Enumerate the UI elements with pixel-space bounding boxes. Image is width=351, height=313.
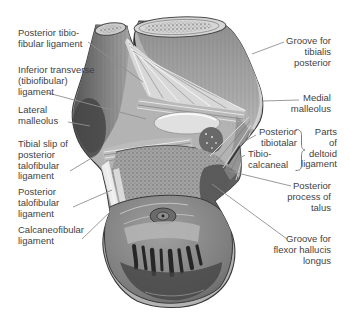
calcaneus [104,195,232,303]
label-inferior-transverse-tibiofibular-ligament: Inferior transverse (tibiofibular) ligam… [18,65,95,97]
label-tibial-slip-of-posterior-talofibular-ligament: Tibial slip of posterior talofibular lig… [18,139,68,182]
label-tibiocalcaneal: Tibio- calcaneal [248,149,288,171]
anatomy-diagram-panel: Posterior tibio- fibular ligament Inferi… [0,0,351,313]
label-parts-of-deltoid-ligament: Parts of deltoid ligament [301,127,337,170]
leader-tibial-slip [70,156,95,171]
label-posterior-process-of-talus: Posterior process of talus [287,181,331,213]
label-calcaneofibular-ligament: Calcaneofibular ligament [18,225,84,247]
label-posterior-talofibular-ligament: Posterior talofibular ligament [18,187,59,219]
speckled-pit [199,127,223,153]
label-posterior-tibiofibular-ligament: Posterior tibio- fibular ligament [18,28,82,50]
label-lateral-malleolus: Lateral malleolus [18,105,58,127]
label-groove-for-flexor-hallucis-longus: Groove for flexor hallucis longus [273,234,331,266]
label-medial-malleolus: Medial malleolus [291,93,331,115]
label-groove-for-tibialis-posterior: Groove for tibialis posterior [286,36,331,68]
leader-groove-tibialis-posterior [252,42,284,54]
leader-posterior-talofibular-ligament [73,190,112,207]
label-posterior-tibiotalar: Posterior tibiotalar [259,127,297,149]
